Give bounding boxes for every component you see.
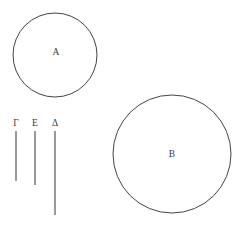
segment-delta-label: Δ xyxy=(52,118,58,128)
segment-gamma-label: Γ xyxy=(13,118,19,128)
geometry-figure: A B Γ Ε Δ xyxy=(0,0,240,229)
circle-b-label: B xyxy=(169,149,175,159)
figure-canvas: A B Γ Ε Δ xyxy=(0,0,240,229)
circle-a-label: A xyxy=(53,47,60,57)
segment-epsilon-label: Ε xyxy=(32,118,38,128)
